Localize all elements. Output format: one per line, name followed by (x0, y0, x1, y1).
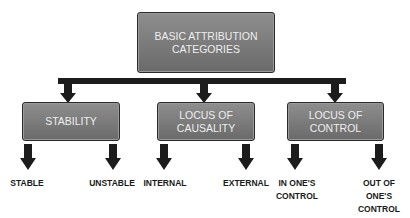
category-node-locus-of-causality: LOCUS OF CAUSALITY (157, 102, 255, 141)
category-node-locus-of-control: LOCUS OF CONTROL (287, 102, 384, 141)
arrow-down-icon (105, 144, 121, 170)
arrow-down-icon (60, 84, 76, 103)
root-node-basic-attribution-categories: BASIC ATTRIBUTION CATEGORIES (137, 12, 275, 73)
arrow-down-icon (371, 144, 387, 170)
arrow-down-icon (20, 144, 36, 170)
leaf-stable: STABLE (2, 177, 52, 190)
leaf-out-of-ones-control: OUT OF ONE'S CONTROL (354, 177, 404, 216)
arrow-down-icon (196, 84, 212, 103)
arrow-down-icon (287, 144, 303, 170)
category-node-stability: STABILITY (22, 102, 120, 141)
leaf-unstable: UNSTABLE (86, 177, 138, 190)
arrow-down-icon (156, 144, 172, 170)
arrow-down-icon (238, 144, 254, 170)
leaf-in-ones-control: IN ONE'S CONTROL (272, 177, 322, 203)
arrow-down-icon (327, 84, 343, 103)
leaf-external: EXTERNAL (218, 177, 274, 190)
leaf-internal: INTERNAL (140, 177, 190, 190)
